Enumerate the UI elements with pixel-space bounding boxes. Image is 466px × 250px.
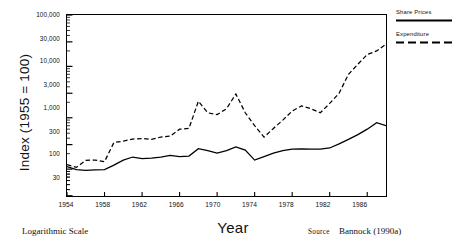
y-tick-label: 100 xyxy=(49,150,60,157)
x-tick-label: 1970 xyxy=(205,200,220,209)
chart-figure: 100,000 30,000 10,000 3,000 1,000 300 10… xyxy=(0,0,466,250)
legend-swatch-dashed xyxy=(396,40,452,45)
y-tick-label: 300 xyxy=(49,127,60,134)
plot-canvas xyxy=(67,15,386,196)
x-tick-label: 1954 xyxy=(58,200,73,209)
y-tick-label: 3,000 xyxy=(44,81,61,88)
x-axis-tick-labels: 1954 1958 1962 1966 1970 1974 1978 1982 … xyxy=(0,200,466,214)
legend-swatch-solid xyxy=(396,18,452,23)
legend-item-expenditure: Expenditure xyxy=(396,30,466,45)
x-tick-label: 1982 xyxy=(316,200,331,209)
source-note: Source Bannock (1990a) xyxy=(308,226,401,236)
x-tick-label: 1962 xyxy=(132,200,147,209)
x-tick-label: 1958 xyxy=(95,200,110,209)
scale-note: Logarithmic Scale xyxy=(22,226,88,236)
source-label: Source xyxy=(308,228,330,236)
x-tick-label: 1986 xyxy=(352,200,367,209)
series-line-share-prices xyxy=(67,123,386,171)
legend-label: Share Prices xyxy=(396,8,466,16)
y-tick-label: 1,000 xyxy=(44,103,61,110)
y-tick-label: 100,000 xyxy=(36,11,60,18)
y-tick-label: 30,000 xyxy=(40,34,60,41)
y-tick-label: 30 xyxy=(53,174,60,181)
y-axis-title: Index (1955 = 100) xyxy=(17,23,32,203)
legend-item-share-prices: Share Prices xyxy=(396,8,466,23)
x-tick-label: 1978 xyxy=(279,200,294,209)
plot-area xyxy=(66,14,387,197)
legend-label: Expenditure xyxy=(396,30,466,38)
chart-legend: Share Prices Expenditure xyxy=(396,8,466,52)
y-axis-ticks xyxy=(67,15,72,196)
x-tick-label: 1966 xyxy=(169,200,184,209)
x-tick-label: 1974 xyxy=(242,200,257,209)
series-line-expenditure xyxy=(67,44,386,167)
y-tick-label: 10,000 xyxy=(40,57,60,64)
x-axis-ticks xyxy=(67,192,367,196)
source-text: Bannock (1990a) xyxy=(332,226,401,236)
